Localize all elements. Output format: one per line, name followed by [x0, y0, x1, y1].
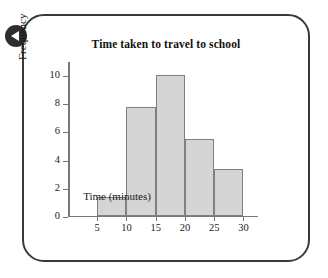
x-tick [97, 216, 98, 221]
x-tick [214, 216, 215, 221]
y-tick: 4 [63, 161, 68, 162]
chart-title: Time taken to travel to school [22, 38, 310, 50]
y-tick-label: 4 [55, 154, 60, 165]
x-axis-label: Time (minutes) [22, 190, 212, 202]
x-tick [185, 216, 186, 221]
histogram-bar [214, 169, 243, 216]
x-tick [156, 216, 157, 221]
y-tick-label: 6 [55, 125, 60, 136]
y-tick: 0 [63, 217, 68, 218]
x-tick-label: 20 [180, 222, 191, 233]
x-tick [243, 216, 244, 221]
y-tick-label: 8 [55, 97, 60, 108]
y-tick: 8 [63, 104, 68, 105]
histogram-bar [185, 139, 214, 215]
y-axis-label: Frequency [16, 14, 28, 60]
y-tick: 6 [63, 132, 68, 133]
histogram-chart: Time taken to travel to school 0246810 5… [22, 14, 310, 262]
y-tick-label: 10 [50, 69, 61, 80]
x-tick-label: 10 [121, 222, 132, 233]
y-tick-label: 0 [55, 210, 60, 221]
x-tick [126, 216, 127, 221]
x-tick-label: 15 [150, 222, 161, 233]
x-tick-label: 30 [238, 222, 249, 233]
y-tick: 10 [63, 76, 68, 77]
x-tick-label: 5 [95, 222, 100, 233]
x-tick-label: 25 [209, 222, 220, 233]
